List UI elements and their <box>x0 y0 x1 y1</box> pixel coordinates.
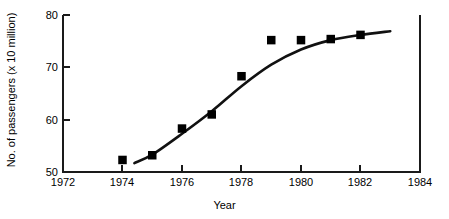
y-axis-ticks <box>63 15 70 172</box>
data-point-marker <box>178 124 187 133</box>
ytick-label-80: 80 <box>38 10 58 21</box>
data-point-marker <box>356 31 365 40</box>
x-axis-ticks <box>63 165 420 172</box>
data-point-marker <box>267 36 276 45</box>
y-axis-title-container: No. of passengers (x 10 million) <box>0 0 22 180</box>
ytick-label-60: 60 <box>38 115 58 126</box>
x-axis-title: Year <box>0 199 449 211</box>
chart-figure: 80 70 60 50 1972 1974 1976 1978 1980 198… <box>0 0 449 219</box>
xtick-label-1980: 1980 <box>289 177 313 188</box>
data-point-marker <box>237 72 246 81</box>
data-point-marker <box>208 110 217 119</box>
data-point-marker <box>148 151 157 160</box>
xtick-label-1978: 1978 <box>229 177 253 188</box>
xtick-label-1976: 1976 <box>170 177 194 188</box>
xtick-label-1972: 1972 <box>51 177 75 188</box>
axis-frame <box>63 15 420 172</box>
trend-line <box>134 31 390 163</box>
xtick-label-1974: 1974 <box>110 177 134 188</box>
y-axis-title: No. of passengers (x 10 million) <box>5 13 17 168</box>
ytick-label-70: 70 <box>38 62 58 73</box>
axis-lines <box>63 15 420 172</box>
xtick-label-1982: 1982 <box>348 177 372 188</box>
data-point-marker <box>297 36 306 45</box>
data-point-markers <box>118 31 365 165</box>
xtick-label-1984: 1984 <box>408 177 432 188</box>
data-point-marker <box>118 156 127 165</box>
data-point-marker <box>327 35 336 44</box>
